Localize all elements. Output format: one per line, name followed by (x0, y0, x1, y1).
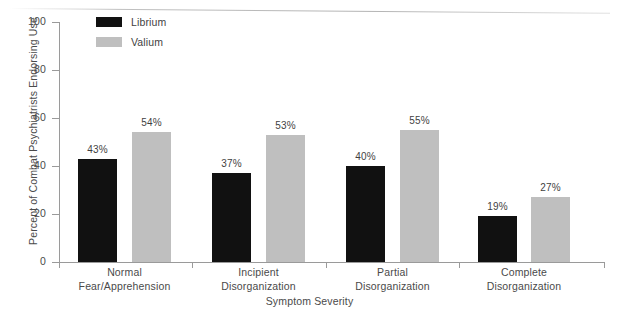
bar-value-valium-1: 54% (132, 117, 171, 128)
category-label-4: CompleteDisorganization (434, 266, 614, 293)
bar-value-librium-1: 43% (78, 144, 117, 155)
bar-librium-4[interactable] (478, 216, 517, 262)
bar-valium-2[interactable] (266, 135, 305, 262)
bar-librium-3[interactable] (346, 166, 385, 262)
category-label-4-line-1: Complete (434, 266, 614, 280)
bar-librium-1[interactable] (78, 159, 117, 262)
x-axis-line (59, 262, 604, 263)
bar-value-valium-3: 55% (400, 115, 439, 126)
bar-value-librium-2: 37% (212, 158, 251, 169)
bar-value-librium-3: 40% (346, 151, 385, 162)
category-label-4-line-2: Disorganization (434, 280, 614, 294)
bar-value-valium-4: 27% (531, 182, 570, 193)
y-tick-0 (52, 262, 59, 263)
bar-valium-3[interactable] (400, 130, 439, 262)
bar-value-valium-2: 53% (266, 120, 305, 131)
bar-valium-4[interactable] (531, 197, 570, 262)
bars-layer (0, 0, 619, 262)
bar-value-librium-4: 19% (478, 201, 517, 212)
bar-valium-1[interactable] (132, 132, 171, 262)
bar-chart: Librium Valium 020406080100 Percent of C… (0, 0, 619, 321)
x-axis-title: Symptom Severity (0, 295, 619, 307)
bar-librium-2[interactable] (212, 173, 251, 262)
